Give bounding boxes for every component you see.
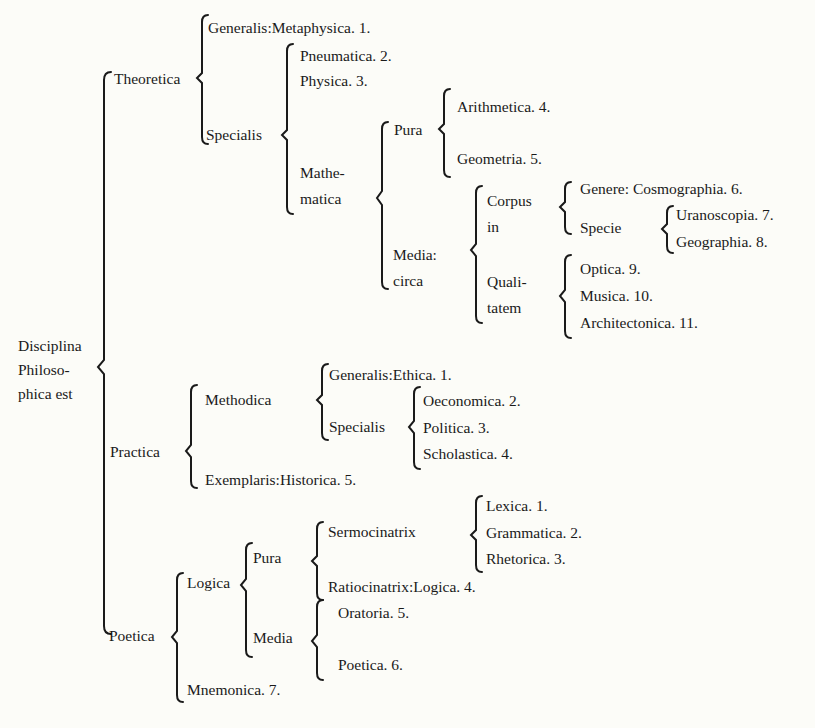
node-corpus-line1: Corpus [487,192,532,210]
node-poetica-6: Poetica. 6. [338,656,403,674]
node-exemplaris-historica: Exemplaris:Historica. 5. [205,471,356,489]
node-specie: Specie [580,219,621,237]
node-media-logica: Media [253,629,293,647]
node-optica: Optica. 9. [580,260,641,278]
node-logica: Logica [187,574,230,592]
node-oratoria: Oratoria. 5. [338,604,409,622]
node-media-circa-line2: circa [393,272,423,290]
node-specialis: Specialis [206,126,262,144]
node-pura-math: Pura [394,121,422,139]
node-pneumatica: Pneumatica. 2. [300,47,392,65]
node-sermocinatrix: Sermocinatrix [328,523,416,541]
node-lexica: Lexica. 1. [486,497,548,515]
node-uranoscopia: Uranoscopia. 7. [676,206,774,224]
node-architectonica: Architectonica. 11. [580,314,698,332]
node-methodica: Methodica [205,391,271,409]
node-geographia: Geographia. 8. [676,233,768,251]
node-mathematica-line1: Mathe- [300,164,345,182]
root-label-line2: Philoso- [18,361,70,379]
node-rhetorica: Rhetorica. 3. [486,550,566,568]
node-qualitatem-line2: tatem [487,299,521,317]
root-label-line1: Disciplina [18,337,82,355]
node-pura-logica: Pura [253,549,281,567]
root-label-line3: phica est [18,385,73,403]
node-qualitatem-line1: Quali- [487,273,527,291]
node-specialis-practica: Specialis [329,418,385,436]
node-practica: Practica [110,443,160,461]
node-mathematica-line2: matica [300,190,341,208]
node-grammatica: Grammatica. 2. [486,524,582,542]
node-mnemonica: Mnemonica. 7. [187,681,280,699]
node-physica: Physica. 3. [300,72,368,90]
node-oeconomica: Oeconomica. 2. [423,392,521,410]
node-ratiocinatrix-logica: Ratiocinatrix:Logica. 4. [328,578,476,596]
node-politica: Politica. 3. [423,419,490,437]
node-media-circa-line1: Media: [393,246,437,264]
node-generalis-metaphysica: Generalis:Metaphysica. 1. [208,19,370,37]
node-musica: Musica. 10. [580,287,653,305]
node-corpus-line2: in [487,218,499,236]
node-geometria: Geometria. 5. [457,150,542,168]
node-generalis-ethica: Generalis:Ethica. 1. [329,366,452,384]
node-poetica: Poetica [109,627,155,645]
node-arithmetica: Arithmetica. 4. [457,98,550,116]
node-theoretica: Theoretica [114,70,180,88]
node-scholastica: Scholastica. 4. [423,445,513,463]
node-cosmographia: Genere: Cosmographia. 6. [580,180,743,198]
